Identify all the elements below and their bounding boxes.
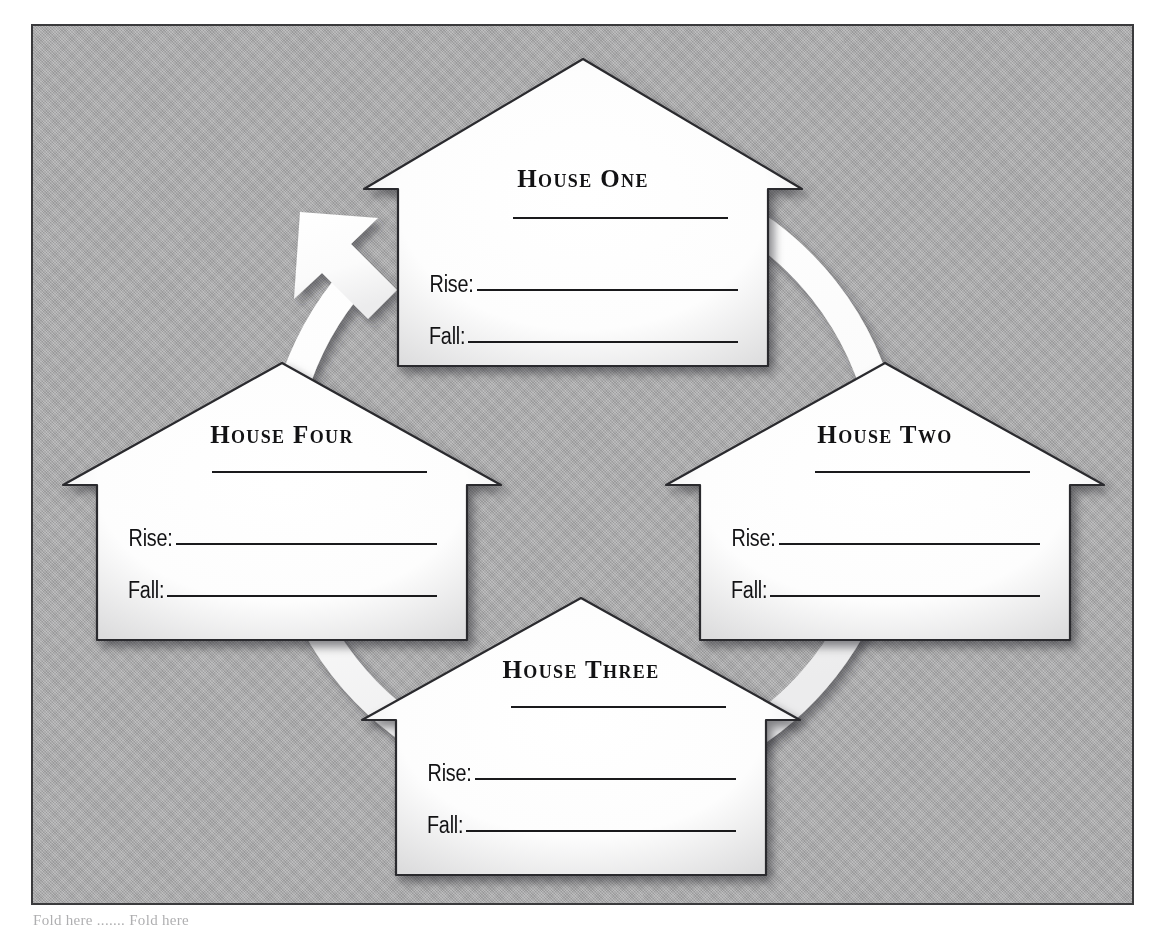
page-caption: Fold here ....... Fold here — [33, 912, 633, 930]
field-input-rise[interactable] — [477, 289, 738, 291]
house-field-fall[interactable]: Fall: — [424, 812, 736, 839]
field-input-fall[interactable] — [770, 595, 1040, 597]
house-field-rise[interactable]: Rise: — [426, 271, 738, 298]
field-label-fall: Fall: — [128, 577, 164, 604]
house-field-rise[interactable]: Rise: — [424, 760, 736, 787]
field-label-rise: Rise: — [732, 525, 776, 552]
field-input-rise[interactable] — [176, 543, 437, 545]
house-card-house-four[interactable]: House Four Rise: Fall: — [57, 357, 507, 647]
house-field-fall[interactable]: Fall: — [125, 577, 437, 604]
house-title-rule — [212, 471, 427, 473]
house-card-house-one[interactable]: House One Rise: Fall: — [358, 53, 808, 373]
house-title-rule — [511, 706, 726, 708]
house-field-rise[interactable]: Rise: — [728, 525, 1040, 552]
worksheet-page: House Three Rise: Fall: — [0, 0, 1158, 930]
field-input-fall[interactable] — [167, 595, 437, 597]
field-label-fall: Fall: — [427, 812, 463, 839]
field-input-rise[interactable] — [779, 543, 1040, 545]
field-label-rise: Rise: — [129, 525, 173, 552]
field-label-rise: Rise: — [430, 271, 474, 298]
field-input-fall[interactable] — [468, 341, 738, 343]
house-shape — [364, 59, 802, 366]
house-title-rule — [513, 217, 728, 219]
field-input-rise[interactable] — [475, 778, 736, 780]
field-label-fall: Fall: — [731, 577, 767, 604]
house-card-house-two[interactable]: House Two Rise: Fall: — [660, 357, 1110, 647]
field-input-fall[interactable] — [466, 830, 736, 832]
house-field-rise[interactable]: Rise: — [125, 525, 437, 552]
house-field-fall[interactable]: Fall: — [426, 323, 738, 350]
house-title-rule — [815, 471, 1030, 473]
field-label-fall: Fall: — [429, 323, 465, 350]
field-label-rise: Rise: — [428, 760, 472, 787]
diagram-stage: House Three Rise: Fall: — [33, 26, 1132, 903]
house-field-fall[interactable]: Fall: — [728, 577, 1040, 604]
worksheet-panel: House Three Rise: Fall: — [31, 24, 1134, 905]
